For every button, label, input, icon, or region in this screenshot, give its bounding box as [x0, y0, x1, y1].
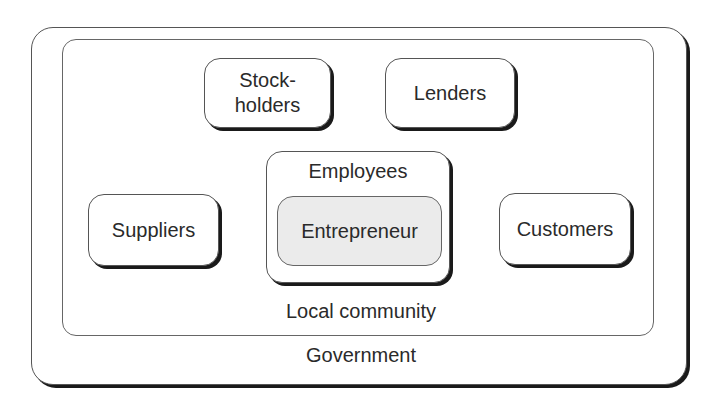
stockholders-label-line2: holders: [235, 93, 301, 118]
employees-node: Employees Entrepreneur: [266, 151, 450, 283]
customers-node: Customers: [499, 193, 631, 265]
employees-label: Employees: [267, 160, 449, 183]
stockholders-label-line1: Stock-: [235, 68, 301, 93]
stockholders-node: Stock- holders: [204, 58, 331, 128]
lenders-label: Lenders: [414, 81, 486, 106]
lenders-node: Lenders: [385, 58, 515, 128]
entrepreneur-label: Entrepreneur: [301, 220, 418, 243]
suppliers-node: Suppliers: [88, 194, 219, 266]
government-label: Government: [0, 344, 722, 367]
entrepreneur-node: Entrepreneur: [277, 196, 442, 266]
customers-label: Customers: [517, 217, 614, 242]
local-community-label: Local community: [0, 300, 722, 323]
suppliers-label: Suppliers: [112, 218, 195, 243]
